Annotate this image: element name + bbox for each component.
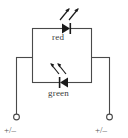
terminal-right-label: +/– <box>95 126 107 135</box>
terminal-left-node <box>14 114 20 120</box>
circuit-schematic-svg <box>0 0 128 138</box>
green-led-emission-arrows-icon <box>50 63 66 74</box>
terminal-right-node <box>107 114 113 120</box>
green-led-label: green <box>48 89 69 98</box>
circuit-diagram: red green +/– +/– <box>0 0 128 138</box>
left-lead-wire <box>16 57 33 114</box>
right-lead-wire <box>91 57 110 114</box>
terminal-left-label: +/– <box>4 126 16 135</box>
red-led-label: red <box>52 33 64 42</box>
red-led-emission-arrows-icon <box>60 8 79 20</box>
green-led-symbol <box>60 77 68 88</box>
